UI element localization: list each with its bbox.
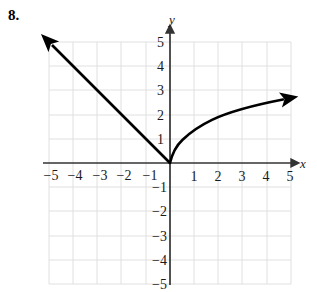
figure-container: 8. <box>0 0 317 292</box>
y-tick-label: 1 <box>157 132 164 147</box>
y-tick-label: −4 <box>152 253 167 268</box>
y-tick-label: 2 <box>157 108 164 123</box>
x-tick-labels-negative: −5 −4 −3 −2 −1 <box>44 168 158 183</box>
x-tick-label: −4 <box>68 168 83 183</box>
y-tick-label: 3 <box>157 83 164 98</box>
x-tick-label: 2 <box>215 169 222 184</box>
x-tick-labels-positive: 1 2 3 4 5 <box>191 169 294 184</box>
y-tick-labels-negative: −1 −2 −3 −4 −5 <box>152 180 167 292</box>
y-tick-label: −2 <box>152 204 167 219</box>
y-tick-label: 5 <box>157 35 164 50</box>
x-tick-label: −5 <box>44 168 59 183</box>
x-tick-label: −3 <box>93 168 108 183</box>
curve-right-branch <box>170 100 283 164</box>
curve-left-branch <box>52 45 170 163</box>
x-tick-label: 3 <box>239 169 246 184</box>
coordinate-plane: −5 −4 −3 −2 −1 1 2 3 4 5 5 4 3 2 1 −1 −2… <box>0 0 317 292</box>
y-tick-label: −1 <box>152 180 167 195</box>
x-tick-label: −2 <box>117 168 132 183</box>
y-tick-label: −5 <box>152 277 167 292</box>
y-tick-labels-positive: 5 4 3 2 1 <box>157 35 164 147</box>
x-tick-label: 5 <box>287 169 294 184</box>
x-tick-label: 1 <box>191 169 198 184</box>
y-tick-label: −3 <box>152 229 167 244</box>
y-axis-title: y <box>167 12 175 27</box>
x-axis-title: x <box>299 156 306 171</box>
y-tick-label: 4 <box>157 59 164 74</box>
x-tick-label: 4 <box>263 169 270 184</box>
